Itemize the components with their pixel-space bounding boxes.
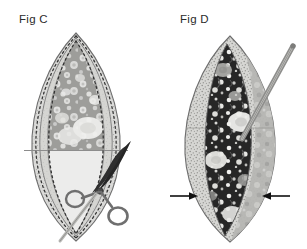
figure-panel-c: Fig C: [0, 0, 153, 249]
figure-d-artwork: [153, 0, 307, 249]
figure-c-artwork: [0, 0, 153, 249]
figure-panel-d: Fig D: [153, 0, 307, 249]
